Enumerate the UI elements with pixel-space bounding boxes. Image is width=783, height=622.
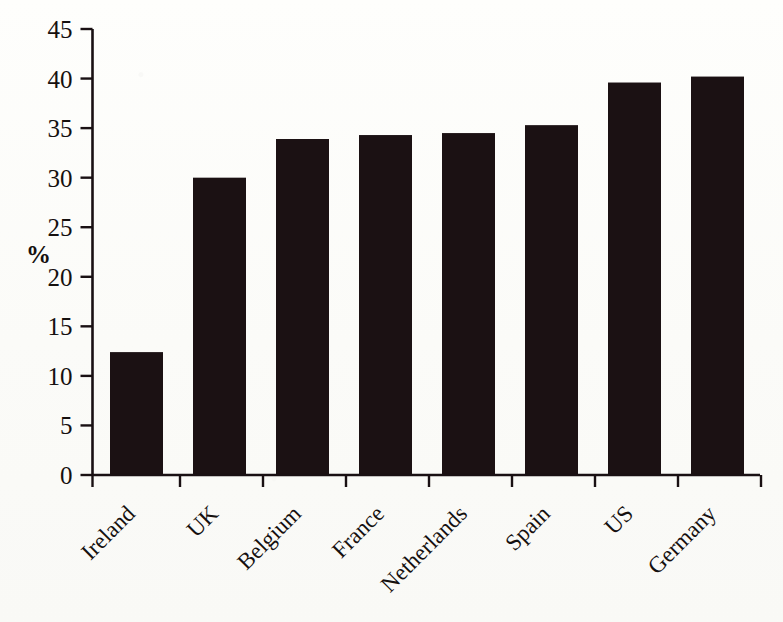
y-axis-tick-label: 0 (60, 462, 73, 489)
y-axis-tick-label: 20 (48, 264, 73, 291)
x-axis-tick-label: France (327, 501, 389, 563)
y-axis-tick-label: 25 (48, 214, 73, 241)
y-axis-tick-label: 5 (60, 412, 73, 439)
y-axis-tick-label: 30 (48, 165, 73, 192)
y-axis-tick-labels: 051015202530354045 (48, 16, 73, 489)
x-axis-ticks (93, 475, 762, 487)
bar (110, 352, 163, 475)
x-axis-tick-label: US (600, 501, 638, 539)
x-axis-tick-labels: IrelandUKBelgiumFranceNetherlandsSpainUS… (76, 501, 721, 598)
y-axis-tick-label: 10 (48, 363, 73, 390)
bar (691, 77, 744, 475)
bar-chart: 051015202530354045 IrelandUKBelgiumFranc… (0, 0, 783, 622)
y-axis-tick-label: 15 (48, 313, 73, 340)
bar (442, 133, 495, 475)
y-axis-ticks (81, 29, 93, 475)
x-axis-tick-label: Germany (643, 501, 722, 580)
x-axis-tick-label: Netherlands (376, 501, 472, 597)
y-axis-tick-label: 35 (48, 115, 73, 142)
bars-group (110, 77, 744, 475)
bar (525, 125, 578, 475)
x-axis-tick-label: Belgium (232, 501, 306, 575)
bar (276, 139, 329, 475)
bar (359, 135, 412, 475)
x-axis-tick-label: UK (182, 501, 223, 542)
x-axis-tick-label: Spain (500, 501, 555, 556)
x-axis-tick-label: Ireland (76, 501, 140, 565)
bar (608, 83, 661, 475)
bar (193, 178, 246, 475)
y-axis-title: % (26, 241, 51, 268)
y-axis-tick-label: 40 (48, 66, 73, 93)
y-axis-tick-label: 45 (48, 16, 73, 43)
